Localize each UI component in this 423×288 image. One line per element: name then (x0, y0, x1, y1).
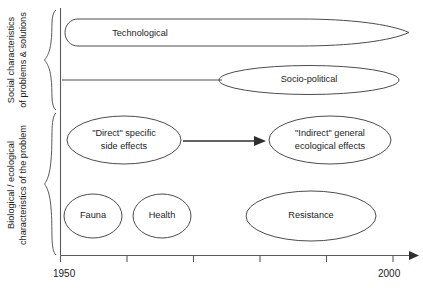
node-direct-specific-side-effects[interactable]: "Direct" specific side effects (67, 116, 181, 164)
node-indirect-label-line1: "Indirect" general (295, 128, 365, 138)
group-label-social-line1: Social characteristics (6, 16, 16, 103)
group-brace-biological (45, 113, 57, 255)
direct-ellipse (67, 116, 181, 164)
node-technological-label: Technological (112, 28, 168, 38)
node-resistance-label: Resistance (288, 210, 333, 220)
node-direct-label-line2: side effects (101, 141, 148, 151)
time-axis-arrow-icon (409, 251, 419, 260)
group-brace-social (45, 10, 57, 110)
group-label-biological: Biological / ecological characteristics … (6, 125, 28, 245)
node-resistance[interactable]: Resistance (246, 191, 376, 241)
node-fauna[interactable]: Fauna (64, 194, 122, 238)
group-label-biological-line2: characteristics of the problem (18, 125, 28, 245)
node-fauna-label: Fauna (80, 210, 107, 220)
axis-end-label: 2000 (378, 268, 401, 279)
axis-start-label: 1950 (53, 268, 76, 279)
diagram-canvas: 1950 2000 Technological Socio-political … (0, 0, 423, 288)
node-socio-political[interactable]: Socio-political (62, 66, 399, 95)
node-health[interactable]: Health (133, 194, 191, 238)
time-axis-ticks (61, 256, 394, 263)
group-label-social-line2: of problems & solutions (18, 12, 28, 108)
node-direct-label-line1: "Direct" specific (92, 128, 156, 138)
node-health-label: Health (149, 210, 176, 220)
timeline-diagram: 1950 2000 Technological Socio-political … (0, 0, 423, 288)
group-label-biological-line1: Biological / ecological (6, 141, 16, 229)
node-socio-political-label: Socio-political (281, 74, 338, 84)
node-technological[interactable]: Technological (65, 19, 409, 46)
indirect-ellipse (269, 116, 391, 164)
group-label-social: Social characteristics of problems & sol… (6, 12, 28, 108)
arrow-head-icon (254, 136, 266, 146)
connector-direct-to-indirect (183, 136, 266, 146)
node-indirect-general-ecological-effects[interactable]: "Indirect" general ecological effects (269, 116, 391, 164)
node-indirect-label-line2: ecological effects (295, 141, 366, 151)
